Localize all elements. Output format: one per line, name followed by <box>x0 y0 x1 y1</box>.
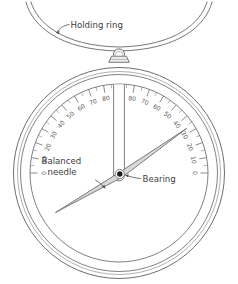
callout-balanced-needle-line2: needle <box>48 167 77 177</box>
scale-number: 80 <box>101 94 110 102</box>
scale-number: 0 <box>40 171 47 175</box>
scale-number: 0 <box>192 171 199 175</box>
diagram-canvas: 010203040506070809080706050403020100 <box>0 0 238 284</box>
scale-number: 80 <box>128 94 137 102</box>
callout-balanced-needle-line1: Balanced <box>42 156 82 166</box>
callout-holding-ring: Holding ring <box>71 20 123 30</box>
callout-bearing: Bearing <box>143 174 176 184</box>
clinometer-diagram: 010203040506070809080706050403020100 <box>0 0 238 284</box>
bearing <box>115 169 124 178</box>
scale-number: 10 <box>190 155 198 164</box>
suspension-eyelet <box>113 49 124 56</box>
mounting-bracket <box>109 56 129 62</box>
